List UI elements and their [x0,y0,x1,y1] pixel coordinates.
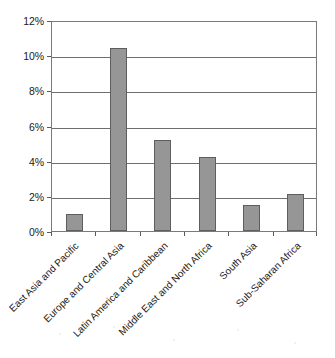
y-axis: 0%2%4%6%8%10%12% [0,0,51,260]
bar [199,157,216,231]
gridline [52,128,316,129]
y-axis-tick-label: 2% [0,192,44,203]
gridline [52,92,316,93]
scan-artifact-speckle [0,318,335,358]
gridline [52,57,316,58]
bar [110,48,127,231]
y-axis-tick-label: 4% [0,157,44,168]
y-axis-tick-label: 10% [0,51,44,62]
y-axis-tick-label: 8% [0,86,44,97]
plot-area [51,21,317,232]
bar-chart-figure: 0%2%4%6%8%10%12% East Asia and PacificEu… [0,0,335,358]
bar [243,205,260,231]
bar [287,194,304,231]
bar [66,214,83,231]
y-axis-tick-label: 12% [0,16,44,27]
bar [154,140,171,231]
y-axis-tick-label: 6% [0,122,44,133]
gridline [52,163,316,164]
gridline [52,198,316,199]
